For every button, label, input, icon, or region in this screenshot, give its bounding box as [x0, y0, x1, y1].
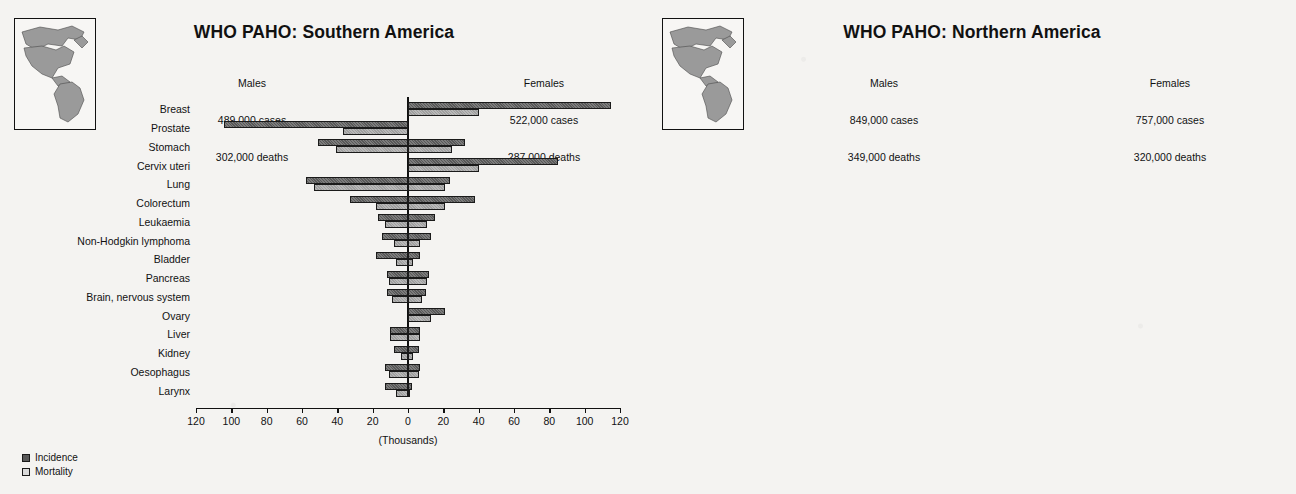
category-label: Stomach — [149, 141, 190, 153]
bar-left-mortality — [396, 259, 408, 266]
legend-label-mortality: Mortality — [35, 466, 73, 477]
chart-row — [196, 381, 620, 400]
mortality-swatch-icon — [22, 468, 30, 476]
x-axis-title: (Thousands) — [196, 434, 620, 446]
chart-row — [196, 363, 620, 382]
category-label: Kidney — [158, 347, 190, 359]
bar-right-mortality — [408, 278, 427, 285]
bar-right-incidence — [408, 346, 419, 353]
bar-right-mortality — [408, 390, 410, 397]
x-axis-tick-label: 0 — [405, 415, 411, 427]
males-heading: Males — [182, 77, 322, 89]
x-axis-tick — [231, 408, 232, 413]
bar-right-mortality — [408, 165, 479, 172]
bar-right-incidence — [408, 308, 445, 315]
bar-right-incidence — [408, 196, 475, 203]
bar-left-mortality — [394, 240, 408, 247]
x-axis-tick-label: 120 — [611, 415, 629, 427]
bar-left-incidence — [387, 289, 408, 296]
bar-left-mortality — [389, 278, 408, 285]
category-label: Brain, nervous system — [86, 291, 190, 303]
bar-right-mortality — [408, 353, 413, 360]
bar-left-mortality — [385, 221, 408, 228]
females-heading: Females — [474, 77, 614, 89]
chart-row — [196, 194, 620, 213]
category-label: Leukaemia — [139, 216, 190, 228]
legend-item-mortality: Mortality — [22, 466, 78, 477]
x-axis-tick-label: 80 — [261, 415, 273, 427]
category-label: Non-Hodgkin lymphoma — [77, 235, 190, 247]
category-label: Colorectum — [136, 197, 190, 209]
chart-row — [196, 156, 620, 175]
x-axis-tick — [408, 408, 409, 413]
x-axis-tick-label: 40 — [331, 415, 343, 427]
x-axis-tick — [514, 408, 515, 413]
bar-left-mortality — [389, 371, 408, 378]
chart-row — [196, 138, 620, 157]
chart-row — [196, 213, 620, 232]
chart-row — [196, 119, 620, 138]
x-axis-tick-label: 100 — [576, 415, 594, 427]
females-deaths: 320,000 deaths — [1100, 151, 1240, 163]
page-title: WHO PAHO: Northern America — [648, 22, 1296, 43]
bar-right-mortality — [408, 315, 431, 322]
x-axis-tick-label: 60 — [296, 415, 308, 427]
x-axis-tick-label: 100 — [223, 415, 241, 427]
bar-right-mortality — [408, 146, 452, 153]
bar-left-incidence — [376, 252, 408, 259]
x-axis-tick — [373, 408, 374, 413]
x-axis-tick-label: 120 — [187, 415, 205, 427]
bar-right-incidence — [408, 327, 420, 334]
category-label: Cervix uteri — [137, 160, 190, 172]
chart-row — [196, 288, 620, 307]
bar-right-mortality — [408, 203, 445, 210]
bar-left-incidence — [306, 177, 408, 184]
category-label: Liver — [167, 328, 190, 340]
males-summary: Males 849,000 cases 349,000 deaths — [814, 52, 954, 188]
category-labels-left: BreastProstateStomachCervix uteriLungCol… — [40, 100, 190, 410]
males-deaths: 349,000 deaths — [814, 151, 954, 163]
bar-left-incidence — [350, 196, 408, 203]
x-axis-tick — [479, 408, 480, 413]
bar-left-incidence — [387, 271, 408, 278]
chart-row — [196, 325, 620, 344]
bar-left-mortality — [343, 128, 408, 135]
bar-right-mortality — [408, 334, 420, 341]
x-axis-tick-label: 40 — [473, 415, 485, 427]
bar-left-mortality — [392, 296, 408, 303]
category-label: Larynx — [158, 385, 190, 397]
category-label: Lung — [167, 178, 190, 190]
x-axis-tick — [585, 408, 586, 413]
x-axis-tick — [267, 408, 268, 413]
bar-right-mortality — [408, 184, 445, 191]
bar-left-mortality — [314, 184, 408, 191]
bar-left-mortality — [401, 353, 408, 360]
chart-row — [196, 250, 620, 269]
bar-right-incidence — [408, 271, 429, 278]
chart-row — [196, 231, 620, 250]
bar-right-incidence — [408, 139, 465, 146]
x-axis-tick — [196, 408, 197, 413]
bar-left-mortality — [376, 203, 408, 210]
bar-left-incidence — [394, 346, 408, 353]
category-label: Prostate — [151, 122, 190, 134]
x-axis-tick-label: 20 — [437, 415, 449, 427]
category-label: Oesophagus — [130, 366, 190, 378]
x-axis-tick — [549, 408, 550, 413]
bar-left-mortality — [390, 334, 408, 341]
bar-left-incidence — [385, 383, 408, 390]
bar-left-incidence — [390, 327, 408, 334]
x-axis-tick — [302, 408, 303, 413]
chart-row — [196, 344, 620, 363]
x-axis-tick-label: 80 — [543, 415, 555, 427]
females-heading: Females — [1100, 77, 1240, 89]
bar-right-mortality — [408, 371, 419, 378]
x-axis-tick-label: 60 — [508, 415, 520, 427]
legend-label-incidence: Incidence — [35, 452, 78, 463]
category-label: Bladder — [154, 253, 190, 265]
bar-right-incidence — [408, 214, 435, 221]
bar-right-mortality — [408, 221, 427, 228]
bar-right-incidence — [408, 158, 558, 165]
panel-southern-america: WHO PAHO: Southern America Males 489,000… — [0, 0, 648, 494]
page-title: WHO PAHO: Southern America — [0, 22, 648, 43]
